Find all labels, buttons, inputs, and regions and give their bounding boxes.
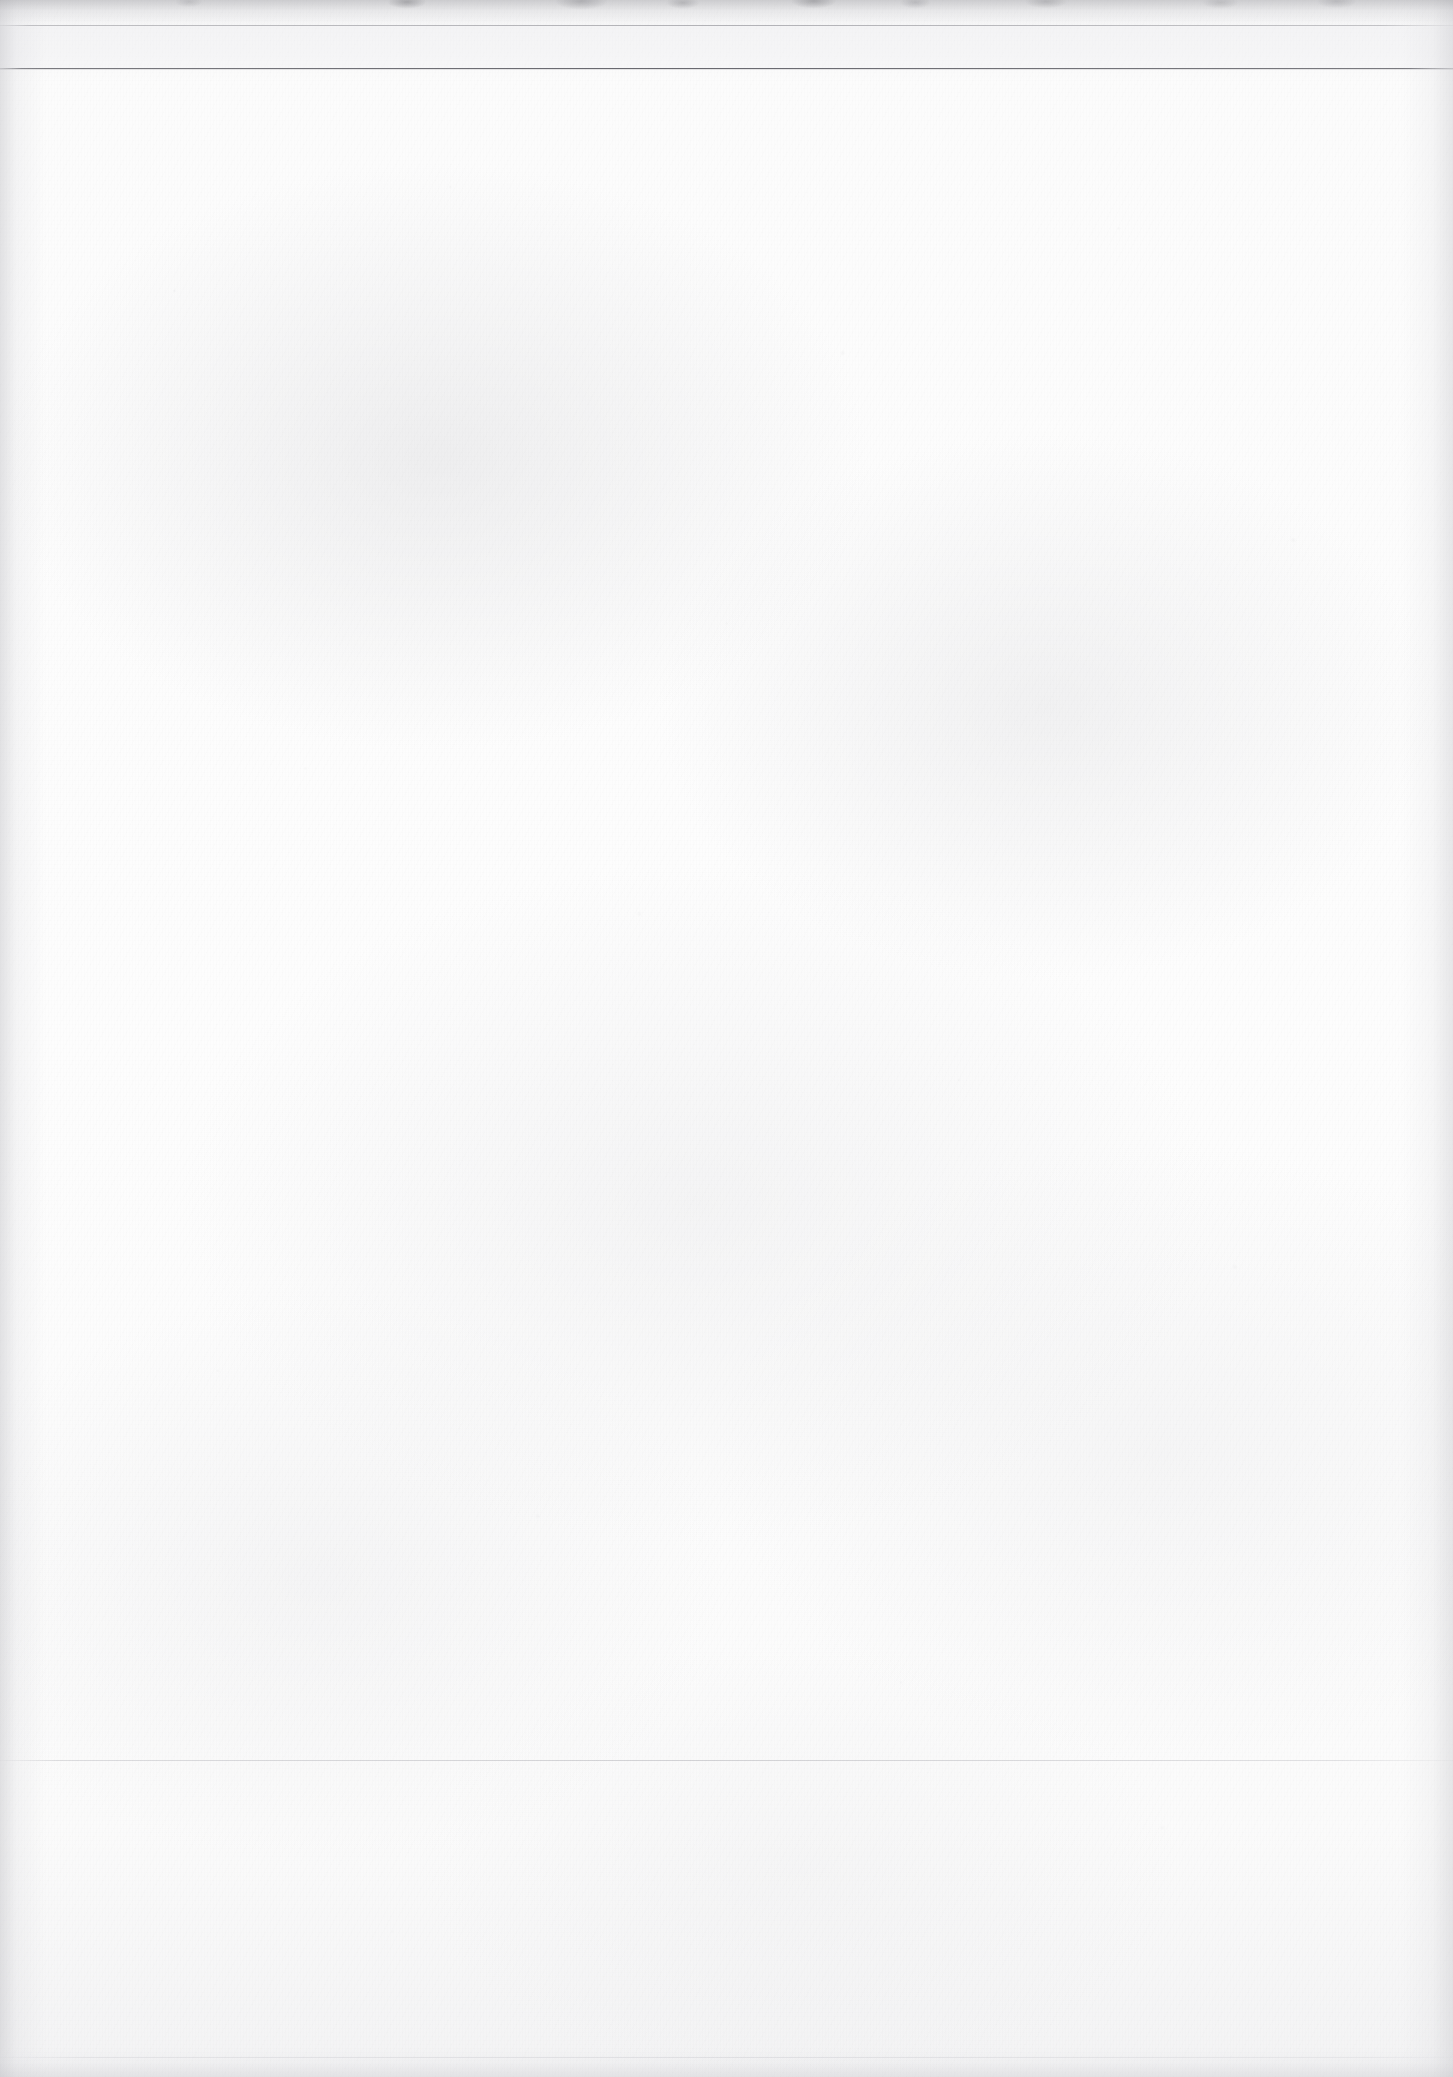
page-text-block <box>150 170 1303 1747</box>
scan-shadow-top <box>0 0 1453 24</box>
main-top-rule <box>0 68 1453 69</box>
page-footer-band <box>0 1761 1453 1801</box>
page-header-band <box>0 26 1453 68</box>
faint-bottom-rule <box>0 2057 1453 2058</box>
scan-shadow-bottom <box>0 2047 1453 2077</box>
scan-smudge-top-edge <box>0 0 1453 20</box>
scanned-document-page <box>0 0 1453 2077</box>
